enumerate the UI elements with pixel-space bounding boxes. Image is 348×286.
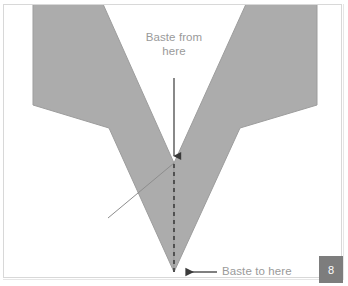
figure-page: Baste from here Baste to here 8 [0, 0, 348, 286]
baste-from-label: Baste from here [124, 31, 224, 58]
baste-to-label: Baste to here [222, 265, 314, 279]
step-number-badge: 8 [319, 256, 343, 283]
